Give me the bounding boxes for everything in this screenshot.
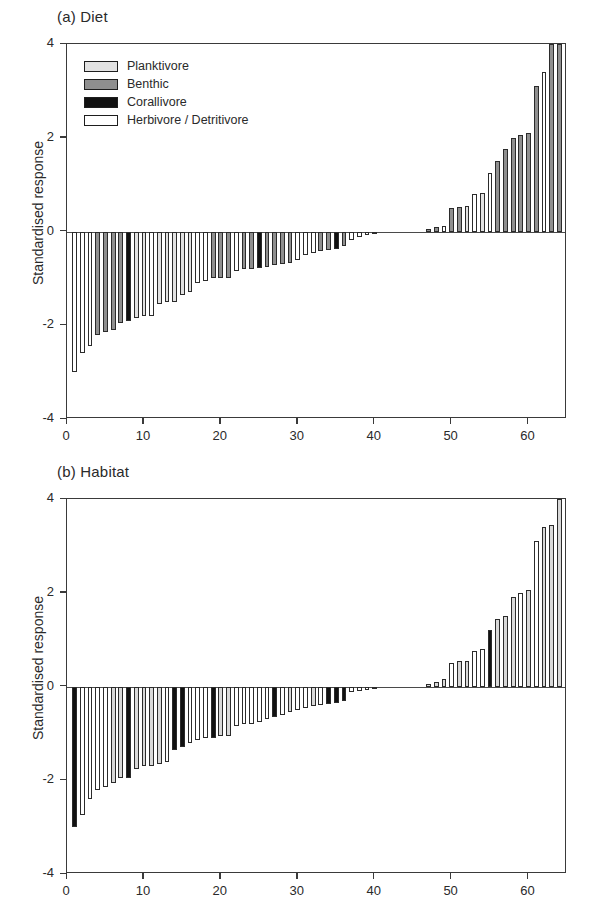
bar	[218, 232, 223, 279]
bar	[326, 232, 331, 251]
bar	[280, 232, 285, 265]
bar	[334, 232, 339, 250]
y-axis-tick-label: 2	[14, 129, 54, 144]
bar	[103, 687, 108, 788]
bar	[365, 232, 370, 236]
bar	[488, 173, 493, 232]
legend-swatch	[84, 79, 118, 90]
x-axis-tick	[296, 873, 297, 879]
bar	[142, 687, 147, 767]
x-axis-tick	[219, 418, 220, 424]
panel-a-title: (a) Diet	[57, 8, 108, 25]
bar	[495, 619, 500, 687]
bar	[518, 135, 523, 231]
bar	[303, 687, 308, 708]
bar	[349, 687, 354, 693]
bar	[342, 687, 347, 701]
bar	[172, 687, 177, 750]
bar	[195, 232, 200, 284]
bar	[295, 232, 300, 260]
bar	[526, 590, 531, 686]
x-axis-tick-label: 0	[46, 883, 86, 898]
bar	[357, 232, 362, 238]
y-axis-tick-label: -2	[14, 316, 54, 331]
legend-swatch	[84, 115, 118, 126]
x-axis-tick-label: 60	[508, 428, 548, 443]
bar	[218, 687, 223, 736]
bar	[549, 44, 554, 232]
bar	[234, 687, 239, 727]
bar	[165, 687, 170, 762]
y-axis-tick	[60, 779, 66, 780]
y-axis-tick	[60, 230, 66, 231]
bar	[426, 229, 431, 232]
bar	[242, 687, 247, 725]
y-axis-tick-label: 4	[14, 35, 54, 50]
bar	[442, 679, 447, 686]
bar	[288, 232, 293, 264]
bar	[565, 499, 566, 687]
panel-diet: (a) Diet Standardised response 420-2-4 0…	[0, 0, 594, 458]
bar	[526, 133, 531, 231]
bar	[349, 232, 354, 240]
bar	[288, 687, 293, 713]
bar	[472, 194, 477, 232]
x-axis-tick	[450, 418, 451, 424]
bar	[511, 597, 516, 686]
bar	[95, 232, 100, 335]
bar	[226, 687, 231, 736]
bar	[442, 226, 447, 232]
bar	[295, 687, 300, 710]
legend-label: Herbivore / Detritivore	[127, 114, 249, 127]
legend-item: Benthic	[84, 76, 249, 92]
x-axis-tick-label: 60	[508, 883, 548, 898]
x-axis-tick-label: 10	[123, 883, 163, 898]
bar	[311, 232, 316, 253]
bar	[318, 687, 323, 706]
bar	[449, 663, 454, 686]
bar	[557, 44, 562, 232]
y-axis-tick	[60, 498, 66, 499]
x-axis-tick-label: 20	[200, 883, 240, 898]
legend-swatch	[84, 97, 118, 108]
y-axis-tick-label: 0	[14, 678, 54, 693]
bar	[534, 541, 539, 686]
bar	[118, 687, 123, 778]
bar	[134, 232, 139, 319]
bar	[265, 687, 270, 720]
x-axis-tick	[527, 418, 528, 424]
bar	[157, 687, 162, 764]
bar	[565, 44, 566, 232]
y-axis-tick	[60, 324, 66, 325]
bar	[503, 149, 508, 231]
y-axis-tick	[60, 136, 66, 137]
bar	[457, 207, 462, 231]
bar	[111, 232, 116, 330]
bar	[134, 687, 139, 769]
bar	[488, 630, 493, 686]
y-axis-tick-label: -2	[14, 771, 54, 786]
bar	[480, 193, 485, 231]
x-axis-tick	[66, 873, 67, 879]
bar	[142, 232, 147, 316]
y-axis-tick	[60, 43, 66, 44]
bar	[334, 687, 339, 703]
bar	[180, 687, 185, 748]
bar	[103, 232, 108, 333]
bar	[511, 138, 516, 232]
bar	[165, 232, 170, 302]
bar	[157, 232, 162, 305]
y-axis-tick-label: -4	[14, 410, 54, 425]
bar	[434, 682, 439, 687]
bar	[372, 232, 377, 234]
bar	[149, 687, 154, 767]
y-axis-tick	[60, 685, 66, 686]
legend-item: Herbivore / Detritivore	[84, 112, 249, 128]
panel-b-plot-area	[66, 498, 566, 873]
panel-b-title: (b) Habitat	[57, 463, 129, 480]
bar	[534, 86, 539, 231]
bar	[242, 232, 247, 270]
bar	[80, 687, 85, 816]
bar	[472, 651, 477, 686]
bar	[257, 687, 262, 722]
